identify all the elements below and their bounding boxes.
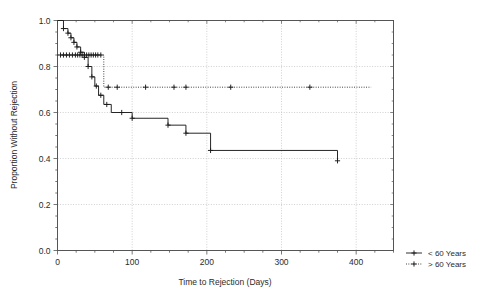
y-tick-label: 0.8	[39, 62, 51, 72]
x-tick-label: 400	[349, 257, 363, 267]
y-tick-label: 0.2	[39, 200, 51, 210]
kaplan-meier-figure: 0.00.20.40.60.81.0 0100200300400 Time to…	[0, 0, 486, 295]
legend-label: < 60 Years	[428, 249, 466, 258]
y-tick-label: 0.4	[39, 154, 51, 164]
y-tick-label: 0.6	[39, 108, 51, 118]
x-axis-title: Time to Rejection (Days)	[178, 277, 271, 287]
y-tick-label: 0.0	[39, 246, 51, 256]
x-tick-label: 0	[55, 257, 60, 267]
x-tick-label: 300	[274, 257, 288, 267]
legend-label: > 60 Years	[428, 260, 466, 269]
y-tick-label: 1.0	[39, 16, 51, 26]
y-axis-title: Proportion Without Rejection	[9, 81, 19, 189]
x-tick-label: 200	[200, 257, 214, 267]
chart-canvas: 0.00.20.40.60.81.0 0100200300400 Time to…	[0, 0, 486, 295]
x-tick-label: 100	[125, 257, 139, 267]
